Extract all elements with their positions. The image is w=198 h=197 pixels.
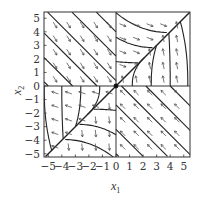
y-axis-label: x2 bbox=[10, 86, 26, 96]
y-tick-label: −5 bbox=[25, 148, 40, 160]
equilibrium-point bbox=[114, 84, 119, 89]
phase-portrait-figure: −5−4−3−2−1012345543210−1−2−3−4−5 x1 x2 bbox=[0, 0, 198, 197]
svg-text:x2: x2 bbox=[10, 86, 26, 96]
x-tick-label: 0 bbox=[113, 160, 120, 172]
y-tick-label: 0 bbox=[33, 80, 40, 92]
x-tick-label: 4 bbox=[167, 160, 174, 172]
y-tick-label: −3 bbox=[25, 120, 40, 132]
x-tick-label: 5 bbox=[180, 160, 187, 172]
y-tick-label: −4 bbox=[25, 134, 41, 146]
x-axis-label: x1 bbox=[110, 179, 120, 195]
y-tick-label: 4 bbox=[33, 26, 40, 38]
x-tick-label: 2 bbox=[140, 160, 147, 172]
y-tick-label: 2 bbox=[33, 53, 40, 65]
y-tick-label: −1 bbox=[25, 93, 40, 105]
x-tick-label: 1 bbox=[126, 160, 133, 172]
y-tick-label: −2 bbox=[25, 107, 40, 119]
y-tick-label: 3 bbox=[33, 39, 40, 51]
y-tick-label: 1 bbox=[33, 66, 40, 78]
y-tick-label: 5 bbox=[33, 12, 40, 24]
x-tick-label: −1 bbox=[95, 160, 110, 172]
x-tick-label: 3 bbox=[153, 160, 160, 172]
